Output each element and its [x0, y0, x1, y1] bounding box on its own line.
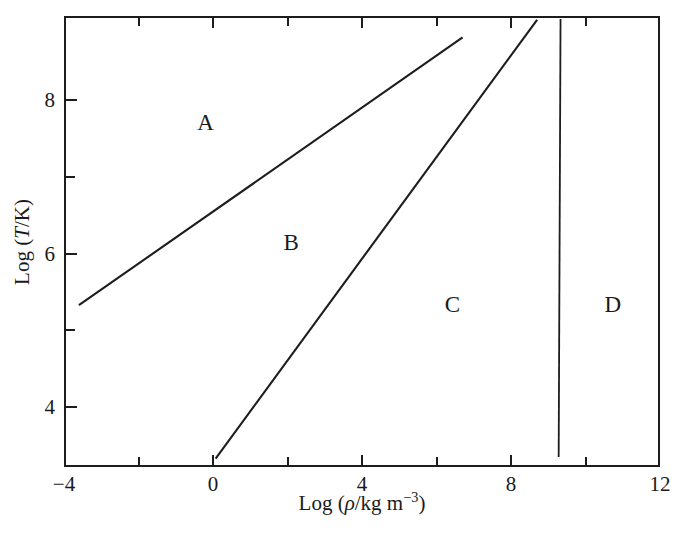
y-axis-title-mid: /K	[10, 206, 34, 227]
y-axis-title: Log (T/K)	[12, 199, 33, 285]
y-tick-label: 4	[45, 397, 56, 418]
region-label-d: D	[604, 292, 621, 315]
plot-frame	[64, 16, 660, 467]
region-label-c: C	[445, 292, 460, 315]
y-tick-label: 6	[45, 243, 56, 264]
x-axis-title: Log (ρ/kg m−3)	[299, 493, 426, 514]
x-axis-title-suffix: )	[418, 491, 425, 515]
y-axis-title-symbol: T	[10, 227, 34, 239]
phase-diagram-figure: A B C D −4 0 4 8 12 4 6 8 Log (ρ/kg m−3)…	[0, 0, 678, 545]
x-axis-title-mid: /kg m	[355, 491, 403, 515]
x-tick-label: −4	[53, 474, 75, 495]
region-label-a: A	[197, 110, 214, 133]
x-tick-label: 12	[650, 474, 671, 495]
x-axis-title-prefix: Log (	[299, 491, 345, 515]
y-tick-label: 8	[45, 90, 56, 111]
x-axis-title-symbol: ρ	[345, 491, 355, 515]
y-axis-title-suffix: )	[10, 199, 34, 206]
x-tick-label: 0	[208, 474, 219, 495]
y-axis-title-prefix: Log (	[10, 239, 34, 285]
region-label-b: B	[284, 231, 299, 254]
x-tick-label: 8	[506, 474, 517, 495]
x-axis-title-exponent: −3	[403, 489, 418, 505]
